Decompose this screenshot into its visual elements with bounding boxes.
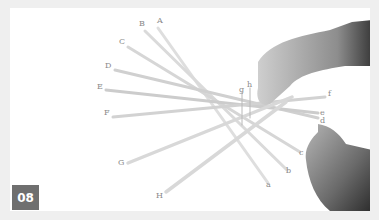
hand-upper [257, 20, 370, 105]
stick-label-lower: g [239, 86, 244, 94]
stick-label-lower: d [320, 117, 325, 125]
stick-label-lower: a [266, 181, 271, 189]
stick-label-upper: H [156, 192, 163, 200]
stick-label-lower: f [328, 90, 331, 98]
stick-label-upper: F [104, 109, 110, 117]
stick-label-lower: b [286, 167, 291, 175]
instruction-photo [10, 8, 370, 211]
stick-label-upper: B [139, 20, 145, 28]
stick-label-upper: G [118, 159, 124, 167]
sticks-illustration [10, 8, 370, 211]
stick-label-lower: c [299, 149, 303, 157]
stick-label-upper: D [105, 62, 111, 70]
hand-lower [306, 124, 370, 211]
stick-label-upper: C [119, 38, 125, 46]
stick-label-upper: A [157, 17, 163, 25]
stick-label-upper: E [97, 83, 103, 91]
stick-label-lower: h [247, 81, 252, 89]
step-number-badge: 08 [12, 185, 39, 210]
stick-label-lower: e [320, 109, 325, 117]
